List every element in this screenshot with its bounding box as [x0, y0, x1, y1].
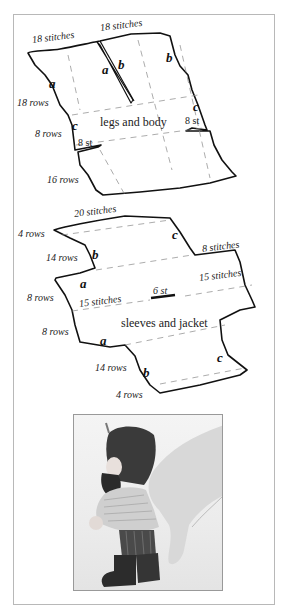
piece-title-legs-and-body: legs and body [100, 115, 167, 130]
label-bottom-rows-14: 14 rows [95, 362, 127, 373]
edge-letter-b: b [166, 50, 173, 66]
label-top-rows: 4 rows [18, 228, 45, 239]
edge-letter-c: c [172, 227, 178, 243]
edge-letter-a: a [102, 62, 109, 78]
edge-letter-b: b [118, 57, 125, 73]
edge-letter-a: a [80, 276, 87, 292]
edge-letter-a: a [100, 333, 107, 349]
label-right-slit: 8 st [185, 115, 199, 126]
label-left-mid-upper-rows: 8 rows [27, 292, 54, 303]
legs-and-body-outline [28, 33, 236, 195]
puppet-illustration [74, 415, 223, 591]
label-left-lower-rows: 16 rows [47, 174, 79, 185]
label-left-upper-rows: 18 rows [17, 97, 49, 108]
edge-letter-c: c [72, 118, 78, 134]
label-left-middle-rows: 8 rows [35, 128, 62, 139]
label-upper-left-rows: 14 rows [46, 252, 78, 263]
label-left-mid-lower-rows: 8 rows [42, 326, 69, 337]
edge-letter-b: b [143, 365, 150, 381]
edge-letter-c: c [193, 99, 199, 115]
edge-letter-c: c [217, 350, 223, 366]
piece-title-sleeves-and-jacket: sleeves and jacket [121, 316, 208, 331]
edge-letter-b: b [92, 247, 99, 263]
label-neck-opening: 6 st [153, 285, 167, 296]
label-bottom-rows-4: 4 rows [116, 389, 143, 400]
edge-letter-a: a [49, 76, 56, 92]
label-left-slit: 8 st [78, 137, 92, 148]
puppet-photo [73, 414, 223, 591]
